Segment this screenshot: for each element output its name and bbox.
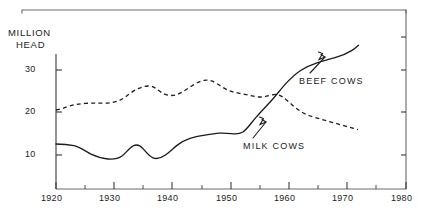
x-tick-label-1970: 1970 xyxy=(332,193,353,203)
x-tick-label-1960: 1960 xyxy=(274,193,295,203)
annotation-leader-milk-cows xyxy=(253,117,266,138)
x-axis-major-ticks xyxy=(56,182,406,189)
y-tick-label-20: 20 xyxy=(25,106,36,116)
x-tick-label-1980: 1980 xyxy=(391,193,412,203)
series-label-milk-cows: MILK COWS xyxy=(243,141,305,151)
y-axis-unit-label-line-1: MILLION xyxy=(8,27,51,39)
series-line-beef-cows xyxy=(56,45,359,159)
x-tick-label-1930: 1930 xyxy=(99,193,120,203)
chart-figure: MILLION HEAD 30 20 10 1920 1930 1940 195… xyxy=(0,0,428,217)
y-axis-unit-label-line-2: HEAD xyxy=(16,39,45,51)
series-line-milk-cows xyxy=(56,80,358,129)
x-tick-label-1950: 1950 xyxy=(216,193,237,203)
cattle-inventory-line-chart xyxy=(0,0,428,217)
y-axis-ticks xyxy=(56,70,62,155)
x-tick-label-1940: 1940 xyxy=(157,193,178,203)
x-tick-label-1920: 1920 xyxy=(41,193,62,203)
right-axis-ticks xyxy=(401,37,406,155)
y-tick-label-30: 30 xyxy=(25,64,36,74)
y-tick-label-10: 10 xyxy=(25,149,36,159)
series-label-beef-cows: BEEF COWS xyxy=(299,76,364,86)
plot-frame xyxy=(22,10,406,189)
